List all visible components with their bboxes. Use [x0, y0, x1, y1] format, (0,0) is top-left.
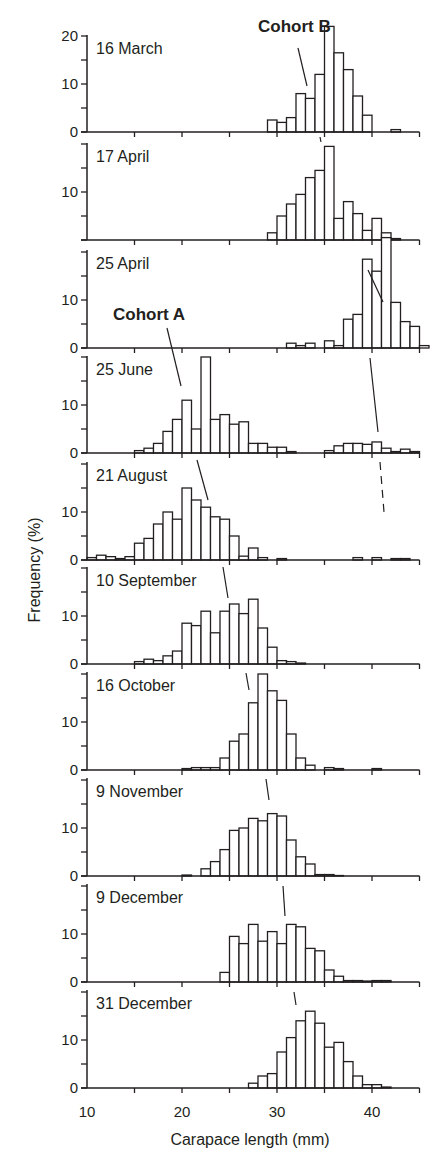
- histogram-bar: [306, 178, 316, 240]
- histogram-bar: [306, 864, 316, 876]
- histogram-bar: [277, 216, 287, 240]
- histogram-bar: [306, 98, 316, 132]
- histogram-bar: [268, 814, 278, 876]
- histogram-bar: [173, 419, 183, 453]
- histogram-bar: [315, 74, 325, 132]
- histogram-bar: [249, 599, 259, 664]
- panel-date-label: 10 September: [96, 572, 197, 589]
- histogram-bar: [163, 656, 173, 664]
- histogram-bar: [325, 1047, 335, 1088]
- histogram-bar: [296, 857, 306, 876]
- histogram-bar: [268, 447, 278, 453]
- panel-date-label: 16 March: [96, 40, 163, 57]
- histogram-bar: [201, 357, 211, 453]
- histogram-bar: [353, 1076, 363, 1088]
- histogram-bar: [239, 944, 249, 982]
- histogram-bar: [268, 233, 278, 240]
- histogram-bar: [220, 758, 230, 770]
- y-tick-label: 0: [70, 655, 78, 672]
- histogram-bar: [163, 512, 173, 560]
- histogram-bar: [287, 118, 297, 132]
- histogram-bar: [230, 604, 240, 664]
- histogram-bar: [173, 519, 183, 560]
- histogram-bar: [201, 869, 211, 876]
- histogram-panel: 01021 August: [61, 462, 419, 568]
- cohort-a-label: Cohort A: [113, 305, 185, 324]
- histogram-bar: [239, 734, 249, 770]
- histogram-bar: [325, 341, 335, 348]
- histogram-bar: [258, 941, 268, 982]
- histogram-bar: [277, 1052, 287, 1088]
- panel-date-label: 9 November: [96, 783, 184, 800]
- y-tick-label: 10: [61, 607, 78, 624]
- panel-date-label: 16 October: [96, 677, 176, 694]
- y-axis-title: Frequency (%): [26, 518, 43, 623]
- x-tick-label: 30: [269, 1103, 286, 1120]
- histogram-bar: [230, 830, 240, 876]
- panel-date-label: 17 April: [96, 148, 149, 165]
- histogram-bar: [211, 517, 221, 560]
- x-axis-tick-labels: 10203040: [79, 1103, 381, 1120]
- histogram-bar: [258, 443, 268, 453]
- histogram-bar: [334, 446, 344, 453]
- histogram-bar: [353, 214, 363, 240]
- histogram-bar: [363, 259, 373, 348]
- histogram-bar: [296, 758, 306, 770]
- histogram-bar: [277, 700, 287, 770]
- histogram-bar: [287, 924, 297, 982]
- histogram-bar: [325, 146, 335, 240]
- histogram-bar: [249, 443, 259, 453]
- histogram-bar: [287, 840, 297, 876]
- histogram-bar: [201, 611, 211, 664]
- histogram-panel: 01031 December: [61, 990, 419, 1096]
- histogram-bar: [315, 1023, 325, 1088]
- histogram-bar: [220, 850, 230, 876]
- histogram-bar: [353, 314, 363, 348]
- histogram-bar: [192, 626, 202, 664]
- y-tick-label: 0: [70, 444, 78, 461]
- histogram-bar: [296, 194, 306, 240]
- x-axis-title: Carapace length (mm): [170, 1131, 329, 1148]
- histogram-bar: [287, 204, 297, 240]
- histogram-bar: [258, 674, 268, 770]
- histogram-bar: [258, 628, 268, 664]
- histogram-bar: [239, 614, 249, 664]
- y-tick-label: 10: [61, 291, 78, 308]
- histogram-bar: [344, 202, 354, 240]
- histogram-bar: [211, 419, 221, 453]
- histogram-bar: [382, 238, 392, 348]
- histogram-panel: 1017 April: [61, 143, 419, 245]
- histogram-bar: [296, 927, 306, 982]
- histogram-bar: [287, 734, 297, 770]
- histogram-bar: [154, 524, 164, 560]
- histogram-bar: [277, 122, 287, 132]
- histogram-bar: [420, 346, 430, 348]
- histogram-bar: [268, 932, 278, 982]
- histogram-bar: [353, 443, 363, 453]
- histogram-bar: [268, 691, 278, 770]
- histogram-bar: [182, 400, 192, 453]
- cohort-annotations: Cohort B Cohort A: [113, 17, 331, 324]
- histogram-bar: [182, 488, 192, 560]
- histogram-bar: [296, 1021, 306, 1088]
- histogram-panel: 0109 November: [61, 778, 419, 884]
- y-tick-label: 0: [70, 123, 78, 140]
- histogram-bar: [230, 424, 240, 453]
- x-tick-label: 10: [79, 1103, 96, 1120]
- histogram-panels: 0102016 March1017 April01025 April01025 …: [61, 26, 429, 1096]
- histogram-bar: [239, 828, 249, 876]
- y-tick-label: 10: [61, 183, 78, 200]
- panel-date-label: 31 December: [96, 995, 193, 1012]
- panel-date-label: 25 April: [96, 255, 149, 272]
- y-tick-label: 10: [61, 925, 78, 942]
- histogram-bar: [249, 924, 259, 982]
- histogram-bar: [334, 1042, 344, 1088]
- histogram-panel: 01016 October: [61, 672, 419, 778]
- histogram-bar: [344, 70, 354, 132]
- histogram-bar: [363, 444, 373, 453]
- histogram-bar: [268, 1074, 278, 1088]
- y-tick-label: 10: [61, 503, 78, 520]
- histogram-panel: 0109 December: [61, 884, 419, 990]
- histogram-bar: [249, 703, 259, 770]
- histogram-bar: [182, 623, 192, 664]
